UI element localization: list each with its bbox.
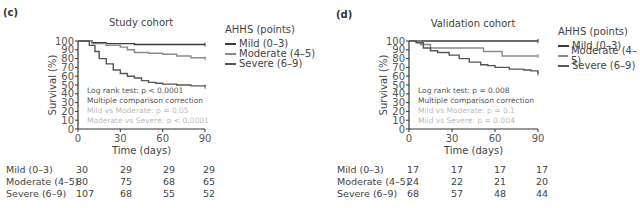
x-tick-label: 0	[406, 133, 412, 144]
survival-curve	[409, 41, 538, 74]
x-tick-label: 60	[156, 133, 169, 144]
legend-title: AHHS (points)	[225, 24, 315, 35]
legend-swatch	[225, 53, 236, 55]
risk-count: 68	[163, 176, 175, 188]
risk-table-row: Severe (6–9)107685552	[6, 188, 316, 200]
panel-study-cohort: (c) Study cohort010203040506070809010003…	[0, 0, 320, 208]
risk-count: 65	[203, 176, 215, 188]
risk-count: 55	[163, 188, 175, 200]
legend-swatch	[558, 55, 568, 57]
risk-table-row: Moderate (4–5)80756865	[6, 176, 316, 188]
stat-annotation: Multiple comparison correction	[87, 96, 203, 105]
risk-count: 29	[120, 164, 132, 176]
risk-count: 68	[407, 188, 419, 200]
x-tick-label: 90	[199, 133, 212, 144]
risk-count: 29	[163, 164, 175, 176]
risk-count: 17	[536, 164, 548, 176]
y-axis-label: Survival (%)	[378, 55, 389, 116]
risk-count: 48	[494, 188, 506, 200]
stat-annotation: Multiple comparison correction	[418, 96, 534, 105]
risk-table-row: Moderate (4–5)24222120	[337, 176, 637, 188]
stat-annotation: Moderate vs Severe: p < 0.0001	[87, 116, 209, 125]
risk-table-row: Mild (0–3)30292929	[6, 164, 316, 176]
legend-swatch	[225, 43, 236, 45]
x-tick-label: 30	[446, 133, 459, 144]
chart-title: Study cohort	[109, 17, 173, 28]
risk-row-label: Moderate (4–5)	[6, 176, 78, 188]
chart-title: Validation cohort	[431, 18, 516, 29]
panel-validation-cohort: (d) Validation cohort0102030405060708090…	[320, 0, 640, 208]
stat-annotation: Mild vs Moderate: p = 0.05	[87, 106, 189, 115]
risk-count: 30	[76, 164, 88, 176]
risk-count: 80	[76, 176, 88, 188]
risk-row-label: Mild (0–3)	[6, 164, 53, 176]
risk-count: 68	[120, 188, 132, 200]
survival-curve	[78, 41, 205, 59]
risk-count: 21	[494, 176, 506, 188]
number-at-risk-table: Mild (0–3)30292929Moderate (4–5)80756865…	[6, 164, 316, 200]
risk-count: 17	[407, 164, 419, 176]
legend: AHHS (points) Mild (0–3) Moderate (4–5) …	[225, 24, 315, 69]
survival-curve	[78, 41, 205, 87]
risk-table-row: Severe (6–9)68574844	[337, 188, 637, 200]
legend-title: AHHS (points)	[558, 26, 640, 37]
risk-count: 17	[451, 164, 463, 176]
risk-count: 17	[494, 164, 506, 176]
legend-swatch	[558, 65, 569, 67]
x-tick-label: 0	[75, 133, 81, 144]
risk-row-label: Severe (6–9)	[337, 188, 397, 200]
x-axis-label: Time (days)	[111, 145, 171, 156]
risk-table-row: Mild (0–3)17171717	[337, 164, 637, 176]
stat-annotation: Log rank test: p < 0.0001	[87, 86, 184, 95]
km-chart-validation: Validation cohort01020304050607080901000…	[320, 0, 640, 160]
y-tick-label: 100	[386, 36, 405, 47]
risk-count: 107	[76, 188, 94, 200]
x-tick-label: 90	[532, 133, 545, 144]
stat-annotation: Mild vs Moderate: p = 0.1	[418, 106, 515, 115]
risk-count: 57	[451, 188, 463, 200]
x-tick-label: 60	[489, 133, 502, 144]
y-axis-label: Survival (%)	[47, 55, 58, 116]
legend-item-severe: Severe (6–9)	[225, 59, 315, 69]
y-tick-label: 100	[55, 36, 74, 47]
risk-row-label: Mild (0–3)	[337, 164, 384, 176]
stat-annotation: Log rank test: p = 0.008	[418, 86, 510, 95]
stat-annotation: Mild vs Severe: p = 0.004	[418, 116, 515, 125]
risk-row-label: Severe (6–9)	[6, 188, 66, 200]
legend: AHHS (points) Mild (0–3) Moderate (4–5) …	[558, 26, 640, 71]
number-at-risk-table: Mild (0–3)17171717Moderate (4–5)24222120…	[337, 164, 637, 200]
risk-count: 52	[203, 188, 215, 200]
x-tick-label: 30	[114, 133, 127, 144]
legend-swatch	[558, 45, 569, 47]
legend-swatch	[225, 63, 236, 65]
risk-count: 20	[536, 176, 548, 188]
risk-row-label: Moderate (4–5)	[337, 176, 409, 188]
risk-count: 24	[407, 176, 419, 188]
x-axis-label: Time (days)	[443, 145, 503, 156]
risk-count: 75	[120, 176, 132, 188]
risk-count: 44	[536, 188, 548, 200]
risk-count: 22	[451, 176, 463, 188]
risk-count: 29	[203, 164, 215, 176]
